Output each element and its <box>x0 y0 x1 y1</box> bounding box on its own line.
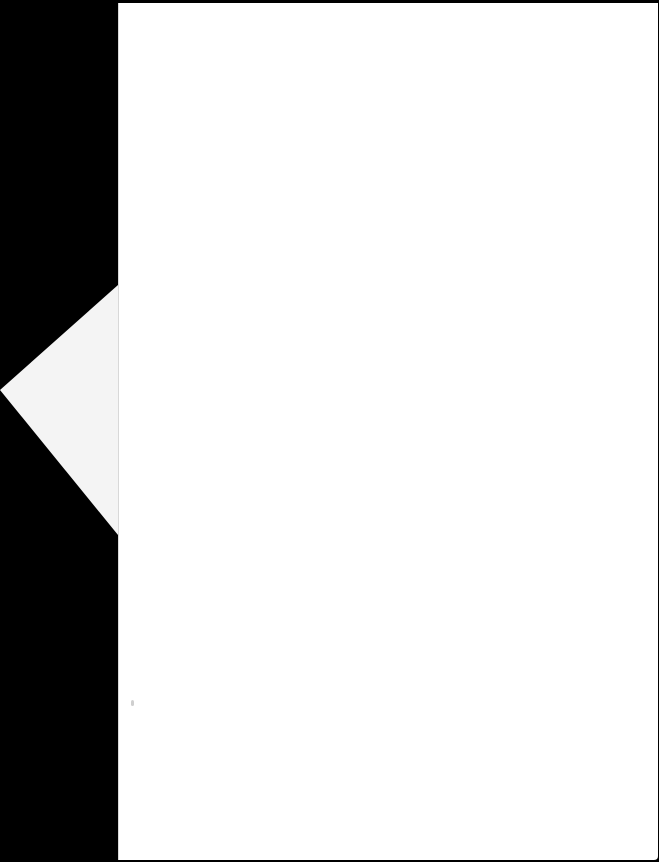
folded-page-corner <box>0 285 118 535</box>
blank-page <box>118 3 658 860</box>
scan-speck <box>131 700 134 706</box>
